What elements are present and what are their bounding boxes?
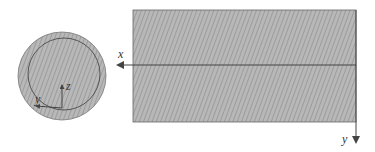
z-axis-label: z [65,79,71,93]
beam-diagram: z y x y [0,0,375,152]
circular-cross-section: z y [18,32,106,120]
beam-side-view: x y [117,10,356,146]
cross-section-y-axis-label: y [34,92,41,106]
x-axis-label: x [117,47,124,61]
y-axis-label: y [341,132,348,146]
beam-rectangle [133,10,356,122]
